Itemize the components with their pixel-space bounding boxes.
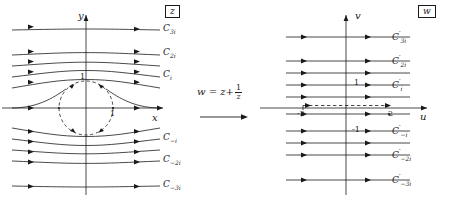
label-c2i-prime: C′2i [392, 55, 406, 68]
z-plane-plot [0, 0, 230, 205]
z-tick-label-one: 1 [110, 110, 115, 118]
w-plane-badge: w [418, 5, 436, 18]
w-plane-plot [225, 0, 455, 205]
label-cm3i: C−3i [163, 180, 181, 191]
label-cm3i-prime: C′−3i [392, 174, 411, 187]
w-tick-label-u2: 2 [388, 110, 393, 118]
w-tick-label-v1: 1 [354, 79, 359, 87]
conformal-mapping-figure: z y x 1 1 C3i C2i Ci C−i C−2i C−3i w = z… [0, 0, 455, 205]
w-u-axis-label: u [420, 112, 426, 122]
w-v-axis-arrow [344, 15, 349, 21]
label-cm2i: C−2i [163, 155, 181, 166]
mapping-arrow [198, 110, 258, 126]
z-y-axis-label: y [78, 11, 84, 21]
w-tick-label-vm1: -1 [352, 126, 360, 134]
label-cmi-prime: C′−i [392, 125, 407, 138]
label-ci: Ci [163, 70, 172, 81]
z-tick-label-i: 1 [80, 73, 85, 81]
w-tick-label-um2: -2 [297, 110, 305, 118]
label-c2i: C2i [163, 48, 176, 59]
z-x-axis-label: x [152, 113, 158, 123]
w-v-axis-label: v [355, 11, 361, 21]
equation-fraction: 1z [235, 84, 242, 102]
label-c3i: C3i [163, 24, 176, 35]
label-c3i-prime: C′3i [392, 31, 406, 44]
label-cm2i-prime: C′−2i [392, 149, 411, 162]
mapping-equation: w = z+1z [197, 84, 242, 102]
z-plane-badge: z [165, 5, 180, 18]
z-y-axis-arrow [84, 15, 89, 21]
w-u-axis-arrow [421, 106, 427, 111]
z-flow-arrows [28, 24, 140, 188]
label-ci-prime: C′i [392, 79, 402, 92]
label-cmi: C−i [163, 133, 177, 144]
